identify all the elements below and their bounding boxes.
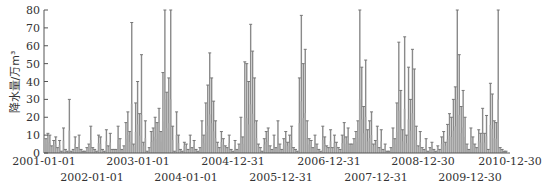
data-bar-fill	[228, 143, 230, 153]
data-bar-fill	[119, 144, 121, 153]
data-bar-fill	[392, 141, 394, 153]
x-tick-label: 2005-12-31	[249, 171, 312, 184]
data-bar-fill	[454, 126, 456, 153]
data-bar-fill	[100, 144, 102, 153]
data-bar-fill	[156, 139, 158, 153]
data-bar-fill	[497, 99, 499, 153]
axes	[44, 10, 510, 153]
data-bar-fill	[76, 148, 78, 153]
data-bar-fill	[488, 149, 490, 153]
data-bar-fill	[472, 144, 474, 153]
data-bar-fill	[445, 146, 447, 153]
x-tick-label: 2009-12-30	[438, 171, 501, 184]
data-bar-fill	[125, 139, 127, 153]
y-axis-title: 降水量/万m³	[8, 51, 22, 114]
data-bar-fill	[53, 145, 55, 153]
data-bar-fill	[402, 141, 404, 153]
data-bar-fill	[287, 146, 289, 153]
data-bar-fill	[47, 143, 49, 153]
data-bar-fill	[259, 148, 261, 153]
data-bar-fill	[489, 125, 491, 153]
data-bar-fill	[187, 149, 189, 153]
data-bar-fill	[117, 140, 119, 153]
x-tick-label: 2003-01-01	[106, 155, 169, 168]
data-bar-fill	[111, 149, 113, 153]
data-bar-fill	[470, 141, 472, 153]
data-bar-fill	[449, 136, 451, 153]
data-bar-fill	[314, 143, 316, 153]
y-tick-label: 20	[26, 111, 40, 124]
data-bar-fill	[293, 148, 295, 153]
data-bar-fill	[209, 114, 211, 153]
data-bar-fill	[217, 146, 219, 153]
data-bar-fill	[343, 139, 345, 153]
data-bar-fill	[271, 149, 273, 153]
data-bar-fill	[244, 118, 246, 153]
data-bar-fill	[131, 104, 133, 153]
data-bar-fill	[107, 147, 109, 153]
data-bar-fill	[423, 149, 425, 153]
data-bar-fill	[109, 143, 111, 153]
data-bar-fill	[113, 149, 115, 153]
x-tick-label: 2004-12-31	[201, 155, 264, 168]
data-bar-fill	[398, 111, 400, 153]
data-bar-fill	[133, 146, 135, 153]
data-bar-fill	[178, 143, 180, 153]
data-bar-fill	[158, 134, 160, 153]
data-bar-fill	[211, 123, 213, 153]
data-bar-fill	[55, 144, 57, 153]
data-bar-fill	[285, 142, 287, 153]
data-bar-fill	[63, 141, 65, 153]
data-bar-fill	[306, 138, 308, 153]
data-bar-fill	[207, 126, 209, 153]
data-bar-fill	[413, 120, 415, 153]
x-tick-label: 2010-12-30	[478, 155, 541, 168]
data-bar-fill	[242, 144, 244, 153]
data-bar-fill	[480, 143, 482, 153]
y-tick-label: 40	[26, 76, 40, 89]
data-bar-fill	[129, 142, 131, 153]
data-bar-fill	[304, 113, 306, 153]
data-bar-fill	[310, 145, 312, 153]
data-bar-fill	[201, 138, 203, 153]
data-bar-fill	[162, 121, 164, 153]
data-bar-fill	[72, 149, 74, 153]
data-bar-fill	[160, 142, 162, 153]
y-tick-label: 10	[26, 129, 40, 142]
data-bar-fill	[291, 140, 293, 153]
data-bar-fill	[367, 141, 369, 153]
data-bar-fill	[376, 140, 378, 153]
data-bar-fill	[248, 124, 250, 153]
data-bar-fill	[263, 144, 265, 153]
data-bar-fill	[74, 144, 76, 153]
data-bar-fill	[468, 149, 470, 153]
data-bar-fill	[246, 118, 248, 153]
data-bar-fill	[334, 143, 336, 153]
data-bar-fill	[199, 148, 201, 153]
data-bar-fill	[421, 148, 423, 153]
data-bar-fill	[45, 144, 47, 153]
data-bar-fill	[351, 146, 353, 153]
data-bar-fill	[215, 138, 217, 153]
data-bar-fill	[59, 145, 61, 153]
data-bar-fill	[90, 140, 92, 153]
x-tick-label: 2004-01-01	[154, 171, 217, 184]
data-bar-fill	[339, 149, 341, 153]
data-bar-fill	[458, 115, 460, 153]
data-bar-fill	[335, 146, 337, 153]
y-tick-label: 60	[26, 40, 40, 53]
data-bar-fill	[452, 131, 454, 153]
data-bar-fill	[141, 115, 143, 153]
data-bar-fill	[410, 131, 412, 153]
y-ticks: 01020304050607080	[26, 4, 48, 160]
data-bar-fill	[312, 148, 314, 153]
data-bar-fill	[152, 141, 154, 153]
y-tick-label: 30	[26, 93, 40, 106]
data-bar-fill	[166, 128, 168, 153]
data-bar-fill	[328, 148, 330, 153]
x-tick-label: 2008-12-30	[391, 155, 454, 168]
data-bar-fill	[491, 129, 493, 153]
data-bar-fill	[121, 149, 123, 153]
data-bar-fill	[443, 142, 445, 153]
data-bar-fill	[218, 148, 220, 153]
